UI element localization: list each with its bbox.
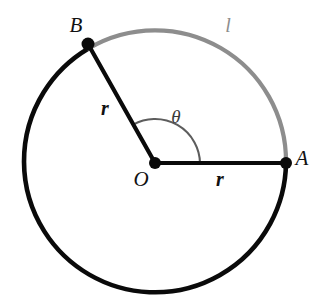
arc-length-label-l: l — [225, 14, 231, 36]
point-label-b: B — [70, 13, 83, 37]
radius-label-ob: r — [101, 97, 109, 119]
point-dot-b — [82, 38, 95, 51]
major-arc-black — [24, 48, 286, 292]
angle-label-theta: θ — [171, 106, 180, 127]
point-dot-o — [149, 157, 161, 169]
circle-arc-diagram: B A O r r l θ — [0, 0, 324, 308]
radius-segment-ob — [88, 44, 155, 163]
diagram-canvas: B A O r r l θ — [0, 0, 324, 308]
radius-label-oa: r — [216, 168, 224, 190]
point-label-o: O — [133, 167, 148, 191]
point-dot-a — [280, 157, 292, 169]
point-label-a: A — [294, 146, 309, 170]
